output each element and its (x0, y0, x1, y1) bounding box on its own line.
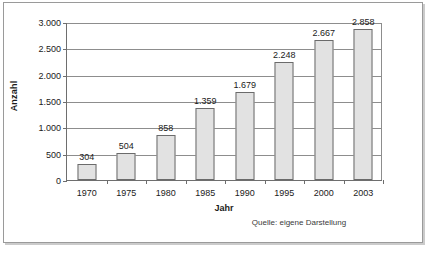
source-note: Quelle: eigene Darstellung (184, 218, 414, 227)
x-tick-mark (146, 180, 147, 184)
chart-figure-frame: Anzahl 05001.0001.5002.0002.5003.000 304… (3, 2, 423, 243)
bar-group: 858 (146, 23, 186, 180)
bar (314, 40, 333, 180)
x-tick-label: 1995 (274, 188, 294, 198)
plot-area: 05001.0001.5002.0002.5003.000 3045048581… (66, 23, 382, 181)
x-tick-mark (265, 180, 266, 184)
y-tick-label: 0 (56, 176, 61, 186)
x-tick-mark (383, 180, 384, 184)
bar-value-label: 1.679 (233, 80, 256, 90)
bar (156, 135, 175, 180)
bar-value-label: 2.248 (273, 50, 296, 60)
bar (275, 62, 294, 180)
y-tick-label: 2.000 (38, 71, 61, 81)
bar (77, 164, 96, 180)
y-tick-mark (63, 181, 67, 182)
bar-value-label: 858 (158, 123, 173, 133)
bar-group: 1.679 (225, 23, 265, 180)
y-tick-label: 1.000 (38, 123, 61, 133)
bars-layer: 3045048581.3591.6792.2482.6672.858 (67, 23, 382, 180)
x-tick-mark (344, 180, 345, 184)
bar-group: 2.858 (344, 23, 384, 180)
bar-value-label: 1.359 (194, 96, 217, 106)
x-tick-label: 1975 (116, 188, 136, 198)
x-tick-label: 1970 (77, 188, 97, 198)
bar-value-label: 504 (119, 141, 134, 151)
x-tick-mark (186, 180, 187, 184)
y-axis-title: Anzahl (9, 66, 19, 126)
x-tick-label: 2003 (353, 188, 373, 198)
y-tick-label: 3.000 (38, 18, 61, 28)
x-tick-mark (107, 180, 108, 184)
bar-group: 304 (67, 23, 107, 180)
bar (354, 29, 373, 180)
bar (235, 92, 254, 180)
bar-value-label: 2.667 (312, 28, 335, 38)
x-tick-label: 1985 (195, 188, 215, 198)
y-tick-label: 1.500 (38, 97, 61, 107)
x-tick-mark (225, 180, 226, 184)
x-tick-label: 2000 (314, 188, 334, 198)
x-tick-mark (304, 180, 305, 184)
x-tick-label: 1980 (156, 188, 176, 198)
bar-group: 504 (107, 23, 147, 180)
bar-group: 2.667 (304, 23, 344, 180)
x-tick-label: 1990 (235, 188, 255, 198)
bar-group: 2.248 (265, 23, 305, 180)
bar-value-label: 304 (79, 152, 94, 162)
y-tick-label: 2.500 (38, 44, 61, 54)
x-axis-title: Jahr (66, 203, 382, 213)
bar-value-label: 2.858 (352, 17, 375, 27)
y-tick-label: 500 (46, 150, 61, 160)
bar (196, 108, 215, 180)
bar-group: 1.359 (186, 23, 226, 180)
bar (117, 153, 136, 180)
